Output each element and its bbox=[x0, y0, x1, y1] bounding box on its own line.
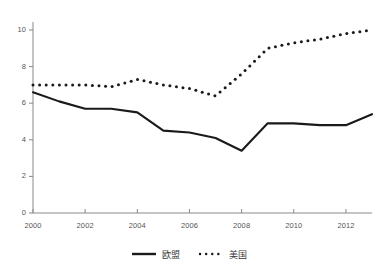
x-axis-tick-label: 2012 bbox=[331, 221, 361, 230]
series-dot bbox=[130, 80, 133, 83]
y-axis-tick-label: 4 bbox=[10, 135, 26, 144]
series-dot bbox=[339, 33, 342, 36]
series-dot bbox=[262, 51, 265, 54]
series-dot bbox=[258, 55, 261, 58]
series-dot bbox=[306, 39, 309, 42]
series-dot bbox=[111, 85, 114, 88]
series-dot bbox=[155, 82, 158, 85]
series-dot bbox=[168, 84, 171, 87]
series-dot bbox=[65, 83, 68, 86]
legend-dotted-line-icon bbox=[198, 249, 224, 259]
series-dot bbox=[162, 83, 165, 86]
y-axis-tick-label: 10 bbox=[10, 25, 26, 34]
series-line-eu bbox=[33, 92, 372, 151]
series-dot bbox=[207, 92, 210, 95]
series-dot bbox=[58, 83, 61, 86]
series-dot bbox=[239, 74, 242, 77]
x-axis-ticks bbox=[33, 209, 346, 213]
series-dot bbox=[123, 81, 126, 84]
series-dot bbox=[319, 37, 322, 40]
series-dot bbox=[287, 42, 290, 45]
series-dot bbox=[97, 84, 100, 87]
x-axis-tick-label: 2004 bbox=[122, 221, 152, 230]
series-dot bbox=[91, 84, 94, 87]
series-dot bbox=[213, 94, 216, 97]
series-dot bbox=[224, 86, 227, 89]
series-dot bbox=[136, 78, 139, 81]
series-dot bbox=[280, 44, 283, 47]
series-dot bbox=[32, 83, 35, 86]
series-dot bbox=[201, 91, 204, 94]
series-dot bbox=[313, 38, 316, 41]
axis-lines bbox=[33, 22, 372, 213]
y-axis-tick-label: 6 bbox=[10, 98, 26, 107]
y-axis-tick-label: 0 bbox=[10, 208, 26, 217]
series-dot bbox=[175, 85, 178, 88]
x-axis-tick-label: 2010 bbox=[279, 221, 309, 230]
series-dot bbox=[300, 40, 303, 43]
series-dot bbox=[71, 83, 74, 86]
legend-solid-line-icon bbox=[131, 249, 157, 259]
series-dot bbox=[293, 41, 296, 44]
x-axis-tick-label: 2006 bbox=[174, 221, 204, 230]
series-dot bbox=[45, 83, 48, 86]
series-dot bbox=[181, 86, 184, 89]
series-dot bbox=[352, 31, 355, 34]
series-dot bbox=[248, 64, 251, 67]
chart-legend: 欧盟 美国 bbox=[0, 244, 378, 264]
x-axis-tick-label: 2000 bbox=[18, 221, 48, 230]
data-series-layer bbox=[32, 29, 373, 150]
series-dot bbox=[38, 83, 41, 86]
series-dot bbox=[229, 82, 232, 85]
series-dot bbox=[78, 83, 81, 86]
series-dot bbox=[365, 29, 368, 32]
series-dot bbox=[104, 85, 107, 88]
series-dotted-usa bbox=[32, 29, 368, 97]
y-axis-tick-label: 8 bbox=[10, 62, 26, 71]
y-axis-ticks bbox=[29, 30, 33, 213]
x-axis-tick-label: 2008 bbox=[227, 221, 257, 230]
series-dot bbox=[142, 79, 145, 82]
legend-item-eu[interactable]: 欧盟 bbox=[131, 248, 180, 261]
legend-item-usa[interactable]: 美国 bbox=[198, 248, 247, 261]
line-chart: 0246810 2000200220042006200820102012 欧盟 … bbox=[0, 0, 378, 266]
series-dot bbox=[332, 35, 335, 38]
series-dot bbox=[345, 32, 348, 35]
series-dot bbox=[194, 89, 197, 92]
series-dot bbox=[253, 60, 256, 63]
series-dot bbox=[51, 83, 54, 86]
series-dot bbox=[358, 30, 361, 33]
series-dot bbox=[326, 36, 329, 39]
legend-label-eu: 欧盟 bbox=[162, 248, 180, 261]
series-dot bbox=[267, 47, 270, 50]
series-dot bbox=[188, 87, 191, 90]
series-dot bbox=[84, 83, 87, 86]
series-dot bbox=[244, 69, 247, 72]
y-axis-tick-label: 2 bbox=[10, 171, 26, 180]
series-dot bbox=[219, 91, 222, 94]
x-axis-tick-label: 2002 bbox=[70, 221, 100, 230]
series-dot bbox=[274, 45, 277, 48]
series-dot bbox=[117, 83, 120, 86]
series-dot bbox=[234, 78, 237, 81]
series-dot bbox=[149, 81, 152, 84]
legend-label-usa: 美国 bbox=[229, 248, 247, 261]
